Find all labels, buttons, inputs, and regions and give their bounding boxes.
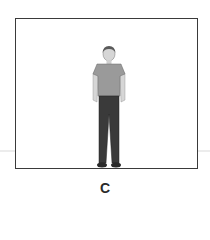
panel-label: C — [0, 180, 210, 196]
standing-person-illustration — [88, 44, 130, 172]
